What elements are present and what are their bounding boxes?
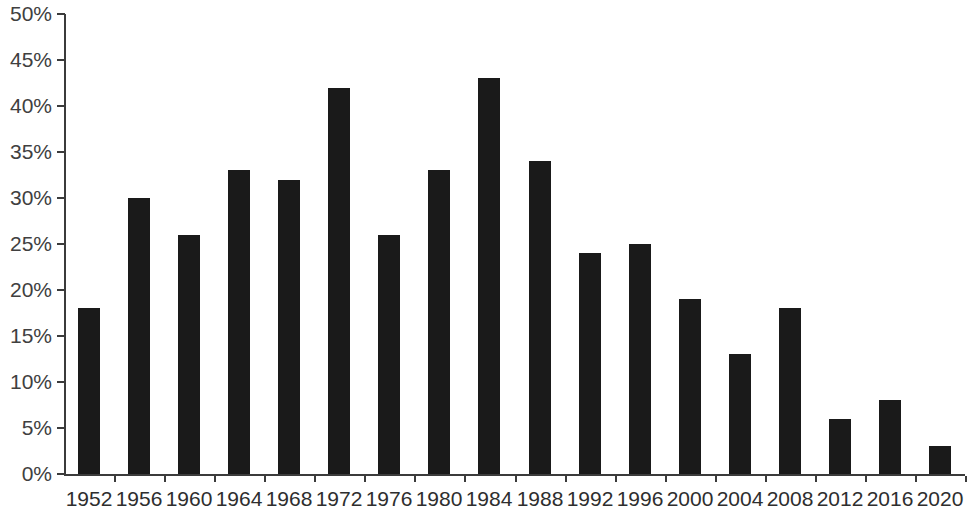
x-axis-tick-label: 1980 bbox=[414, 487, 464, 510]
y-axis-tick-label: 30% bbox=[0, 187, 52, 208]
y-axis-tick-label: 45% bbox=[0, 49, 52, 70]
x-axis-tick-label: 2000 bbox=[665, 487, 715, 510]
x-axis-tick-label: 1964 bbox=[214, 487, 264, 510]
x-axis-tick-label: 2012 bbox=[815, 487, 865, 510]
x-axis-tick-label: 1996 bbox=[615, 487, 665, 510]
bar[interactable] bbox=[228, 170, 250, 474]
bar[interactable] bbox=[779, 308, 801, 474]
x-axis-tick-label: 2016 bbox=[865, 487, 915, 510]
x-axis-tick-mark bbox=[715, 476, 717, 482]
y-axis-tick-mark bbox=[57, 335, 65, 337]
x-axis-tick-mark bbox=[414, 476, 416, 482]
x-axis-tick-label: 1972 bbox=[314, 487, 364, 510]
y-axis-tick-mark bbox=[57, 473, 65, 475]
x-axis-tick-mark bbox=[264, 476, 266, 482]
x-axis-tick-mark bbox=[965, 476, 967, 482]
x-axis-tick-label: 2020 bbox=[915, 487, 965, 510]
x-axis-tick-label: 1984 bbox=[464, 487, 514, 510]
bar[interactable] bbox=[829, 419, 851, 474]
y-axis-tick-mark bbox=[57, 289, 65, 291]
bar[interactable] bbox=[929, 446, 951, 474]
x-axis-tick-label: 1988 bbox=[515, 487, 565, 510]
bar[interactable] bbox=[278, 180, 300, 474]
y-axis-tick-mark bbox=[57, 427, 65, 429]
x-axis-tick-mark bbox=[765, 476, 767, 482]
bar[interactable] bbox=[328, 88, 350, 474]
y-axis-tick-mark bbox=[57, 59, 65, 61]
bar[interactable] bbox=[529, 161, 551, 474]
x-axis-tick-label: 1952 bbox=[64, 487, 114, 510]
y-axis-tick-mark bbox=[57, 13, 65, 15]
x-axis-tick-label: 1960 bbox=[164, 487, 214, 510]
x-axis-tick-mark bbox=[314, 476, 316, 482]
x-axis-tick-label: 2004 bbox=[715, 487, 765, 510]
y-axis-tick-label: 40% bbox=[0, 95, 52, 116]
x-axis-tick-mark bbox=[665, 476, 667, 482]
y-axis-tick-mark bbox=[57, 243, 65, 245]
y-axis-tick-label: 10% bbox=[0, 371, 52, 392]
y-axis-tick-mark bbox=[57, 105, 65, 107]
y-axis-tick-label: 25% bbox=[0, 233, 52, 254]
bar[interactable] bbox=[879, 400, 901, 474]
bar[interactable] bbox=[729, 354, 751, 474]
x-axis-tick-mark bbox=[515, 476, 517, 482]
y-axis-tick-mark bbox=[57, 197, 65, 199]
bar[interactable] bbox=[629, 244, 651, 474]
x-axis-tick-mark bbox=[214, 476, 216, 482]
x-axis-tick-mark bbox=[164, 476, 166, 482]
bar[interactable] bbox=[128, 198, 150, 474]
y-axis-tick-label: 20% bbox=[0, 279, 52, 300]
x-axis-tick-mark bbox=[815, 476, 817, 482]
x-axis-tick-mark bbox=[464, 476, 466, 482]
bar[interactable] bbox=[378, 235, 400, 474]
bar[interactable] bbox=[478, 78, 500, 474]
y-axis-tick-label: 35% bbox=[0, 141, 52, 162]
bar[interactable] bbox=[579, 253, 601, 474]
bar[interactable] bbox=[78, 308, 100, 474]
x-axis-tick-label: 1976 bbox=[364, 487, 414, 510]
y-axis-tick-label: 0% bbox=[0, 463, 52, 484]
y-axis-tick-mark bbox=[57, 151, 65, 153]
x-axis-tick-mark bbox=[565, 476, 567, 482]
x-axis-tick-label: 2008 bbox=[765, 487, 815, 510]
bar[interactable] bbox=[178, 235, 200, 474]
x-axis-tick-mark bbox=[915, 476, 917, 482]
bar[interactable] bbox=[428, 170, 450, 474]
bar-chart: 50%45%40%35%30%25%20%15%10%5%0%195219561… bbox=[0, 0, 973, 516]
y-axis-tick-label: 5% bbox=[0, 417, 52, 438]
x-axis-tick-mark bbox=[364, 476, 366, 482]
x-axis-tick-label: 1992 bbox=[565, 487, 615, 510]
y-axis-tick-label: 50% bbox=[0, 3, 52, 24]
x-axis-tick-label: 1968 bbox=[264, 487, 314, 510]
bar[interactable] bbox=[679, 299, 701, 474]
x-axis-tick-mark bbox=[114, 476, 116, 482]
x-axis-tick-mark bbox=[865, 476, 867, 482]
y-axis-tick-mark bbox=[57, 381, 65, 383]
y-axis-tick-label: 15% bbox=[0, 325, 52, 346]
x-axis-tick-label: 1956 bbox=[114, 487, 164, 510]
plot-area bbox=[0, 0, 973, 516]
x-axis-tick-mark bbox=[615, 476, 617, 482]
